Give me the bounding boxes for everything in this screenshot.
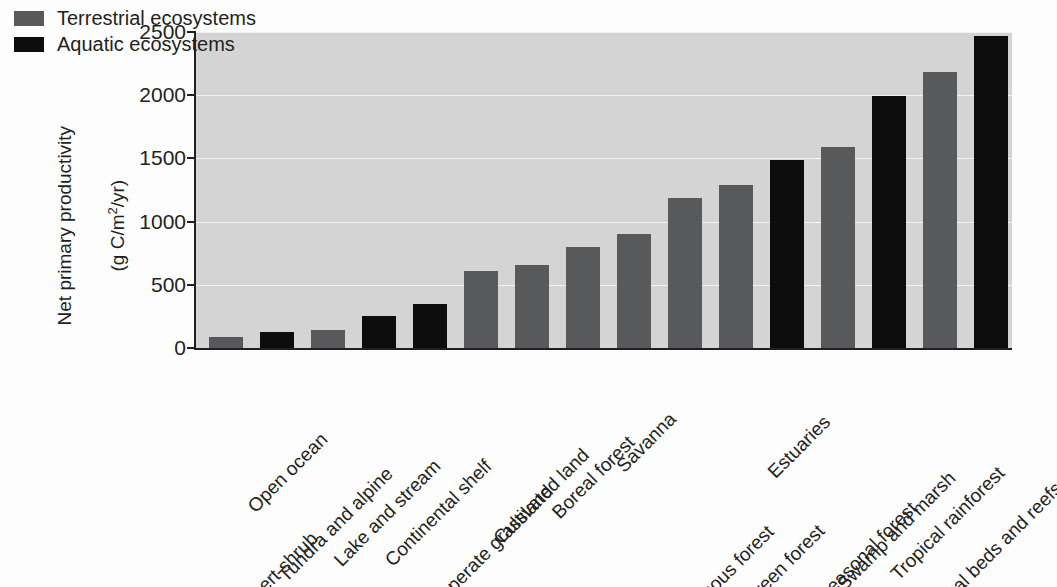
- y-tick-mark: [187, 31, 196, 33]
- bar[interactable]: [872, 96, 906, 348]
- y-tick-label: 0: [116, 337, 186, 358]
- gridline: [196, 32, 1012, 33]
- bar[interactable]: [209, 337, 243, 348]
- y-tick-mark: [187, 347, 196, 349]
- chart-figure: Net primary productivity (g C/m2/yr) 050…: [0, 0, 1057, 587]
- y-tick-mark: [187, 94, 196, 96]
- bar[interactable]: [821, 147, 855, 348]
- bar[interactable]: [515, 265, 549, 348]
- legend-swatch: [14, 11, 44, 26]
- y-tick-mark: [187, 284, 196, 286]
- bar[interactable]: [719, 185, 753, 348]
- y-tick-label: 1500: [116, 147, 186, 168]
- bar[interactable]: [311, 330, 345, 348]
- bar[interactable]: [260, 332, 294, 348]
- y-tick-label: 2000: [116, 84, 186, 105]
- legend-label: Aquatic ecosystems: [57, 34, 235, 54]
- x-tick-label[interactable]: Estuaries: [764, 412, 833, 481]
- y-axis-title-line1: Net primary productivity: [54, 126, 75, 326]
- legend-swatch: [14, 37, 44, 52]
- bar[interactable]: [974, 36, 1008, 348]
- bar[interactable]: [362, 316, 396, 348]
- bar[interactable]: [923, 72, 957, 348]
- chart-legend: Terrestrial ecosystemsAquatic ecosystems: [14, 5, 256, 57]
- x-axis-line: [194, 348, 1012, 350]
- y-tick-mark: [187, 157, 196, 159]
- x-tick-label[interactable]: Temperate deciduous forest: [598, 522, 777, 587]
- bar[interactable]: [668, 198, 702, 348]
- y-tick-mark: [187, 221, 196, 223]
- y-tick-label: 1000: [116, 211, 186, 232]
- legend-label: Terrestrial ecosystems: [57, 8, 256, 28]
- y-axis-ticks: 05001000150020002500: [110, 0, 186, 587]
- y-tick-label: 500: [116, 274, 186, 295]
- x-tick-label[interactable]: Open ocean: [244, 429, 331, 516]
- bar[interactable]: [413, 304, 447, 348]
- legend-item[interactable]: Aquatic ecosystems: [14, 31, 256, 57]
- bar[interactable]: [566, 247, 600, 348]
- bar[interactable]: [770, 160, 804, 348]
- bar[interactable]: [464, 271, 498, 348]
- bar[interactable]: [617, 234, 651, 348]
- legend-item[interactable]: Terrestrial ecosystems: [14, 5, 256, 31]
- plot-area: [196, 32, 1012, 348]
